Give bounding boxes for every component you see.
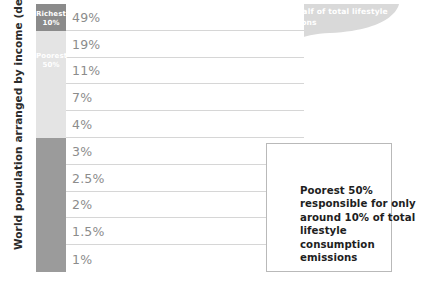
strip-segment-middle (36, 31, 66, 138)
plot-area: Richest 10% Poorest 50% 49% 19% 11% 7% (36, 4, 304, 272)
richest-group-label-line1: Richest (36, 10, 66, 19)
table-row: 1.5% (36, 218, 304, 245)
table-row: 19% (36, 31, 304, 58)
richest-callout-text: Richest 10% reponsible for almost half o… (140, 7, 390, 28)
table-row: 2.5% (36, 165, 304, 192)
decile-rows: 49% 19% 11% 7% 4% 3% 2.5% 2% (36, 4, 304, 272)
poorest-group-label: Poorest 50% (36, 52, 66, 69)
decile-value: 4% (72, 117, 92, 132)
poorest-callout-text: Poorest 50% responsible for only around … (300, 184, 418, 264)
table-row: 4% (36, 111, 304, 138)
table-row: 7% (36, 84, 304, 111)
richest-group-label: Richest 10% (36, 10, 66, 27)
table-row: 3% (36, 138, 304, 165)
table-row: 1% (36, 245, 304, 272)
decile-value: 11% (72, 63, 100, 78)
decile-value: 1% (72, 251, 92, 266)
decile-value: 19% (72, 36, 100, 51)
table-row: 2% (36, 192, 304, 219)
poorest-group-label-line2: 50% (36, 61, 66, 70)
decile-value: 1.5% (72, 224, 105, 239)
decile-value: 2% (72, 197, 92, 212)
decile-value: 7% (72, 90, 92, 105)
decile-value: 3% (72, 143, 92, 158)
poorest-group-label-line1: Poorest (36, 52, 66, 61)
decile-value: 49% (72, 9, 100, 24)
table-row: 11% (36, 58, 304, 85)
y-axis-title-container: World population arranged by income (dec… (0, 0, 34, 276)
emissions-decile-funnel-infographic: World population arranged by income (dec… (0, 0, 435, 290)
richest-group-label-line2: 10% (36, 19, 66, 28)
strip-segment-poorest (36, 138, 66, 272)
y-axis-title: World population arranged by income (dec… (12, 6, 24, 250)
decile-group-strip: Richest 10% Poorest 50% (36, 4, 66, 272)
decile-value: 2.5% (72, 170, 105, 185)
